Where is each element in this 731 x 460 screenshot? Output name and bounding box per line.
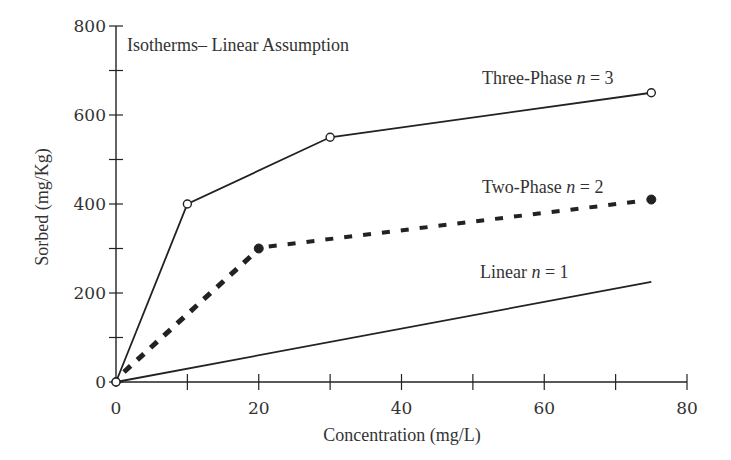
series-layer — [112, 89, 656, 386]
y-tick-label: 200 — [74, 283, 106, 303]
y-tick-label: 800 — [74, 16, 106, 36]
y-axis-title: Sorbed (mg/Kg) — [32, 148, 53, 265]
series-label-value: = 3 — [585, 68, 613, 88]
series-label-variable: n — [566, 177, 575, 197]
series-label-variable: n — [531, 262, 540, 282]
origin-marker — [112, 378, 120, 386]
series-line-segment — [269, 201, 646, 247]
series-label: Three-Phase n = 3 — [482, 68, 614, 88]
x-tick-label: 20 — [248, 398, 270, 418]
y-tick-label: 400 — [74, 194, 106, 214]
series-label: Linear n = 1 — [480, 262, 569, 282]
series-three-phase — [112, 89, 655, 386]
series-line — [116, 93, 651, 382]
filled-circle-marker — [647, 195, 656, 204]
open-circle-marker — [183, 200, 191, 208]
x-tick-label: 60 — [533, 398, 555, 418]
chart-canvas: 0200400600800 020406080 Isotherms– Linea… — [0, 0, 731, 460]
x-tick-label: 0 — [111, 398, 122, 418]
filled-circle-marker — [254, 244, 263, 253]
series-label-value: = 1 — [540, 262, 568, 282]
series-label-text: Linear — [480, 262, 531, 282]
series-label-value: = 2 — [575, 177, 603, 197]
x-tick-label: 40 — [391, 398, 413, 418]
y-tick-label: 600 — [74, 105, 106, 125]
chart-title: Isotherms– Linear Assumption — [127, 35, 349, 55]
x-axis-title: Concentration (mg/L) — [323, 425, 480, 446]
series-label-text: Three-Phase — [482, 68, 576, 88]
series-two-phase — [124, 195, 656, 372]
open-circle-marker — [326, 133, 334, 141]
series-label-text: Two-Phase — [482, 177, 566, 197]
y-tick-label: 0 — [95, 372, 106, 392]
series-label-variable: n — [576, 68, 585, 88]
x-tick-label: 80 — [676, 398, 698, 418]
x-axis-ticks: 020406080 — [111, 374, 698, 418]
series-line — [116, 282, 651, 382]
series-linear — [116, 282, 651, 382]
open-circle-marker — [647, 89, 655, 97]
series-label: Two-Phase n = 2 — [482, 177, 603, 197]
